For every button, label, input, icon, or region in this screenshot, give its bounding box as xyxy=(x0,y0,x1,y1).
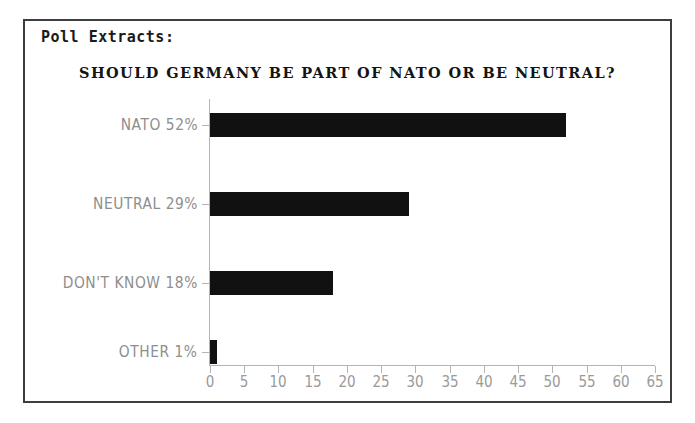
x-axis-tick xyxy=(244,366,245,373)
bar-row: NEUTRAL 29% xyxy=(25,191,674,217)
y-axis-tick xyxy=(202,204,209,205)
x-axis-tick-label: 10 xyxy=(260,373,296,391)
x-axis-tick xyxy=(621,366,622,373)
x-axis-tick xyxy=(210,366,211,373)
y-axis-tick xyxy=(202,352,209,353)
x-axis-tick xyxy=(415,366,416,373)
bar-neutral xyxy=(210,192,409,216)
x-axis-tick-label: 0 xyxy=(192,373,228,391)
x-axis-tick xyxy=(381,366,382,373)
x-axis-tick xyxy=(450,366,451,373)
x-axis-line xyxy=(209,365,655,366)
x-axis-tick xyxy=(347,366,348,373)
bar-other xyxy=(210,340,217,364)
x-axis-tick-label: 5 xyxy=(226,373,262,391)
x-axis-tick xyxy=(313,366,314,373)
x-axis-tick-label: 25 xyxy=(363,373,399,391)
bar-category-label: NEUTRAL 29% xyxy=(93,191,198,217)
figure-frame: Poll Extracts: SHOULD GERMANY BE PART OF… xyxy=(23,19,672,403)
x-axis-tick-label: 50 xyxy=(534,373,570,391)
x-axis-tick xyxy=(518,366,519,373)
x-axis-tick-label: 35 xyxy=(432,373,468,391)
x-axis-tick xyxy=(655,366,656,373)
y-axis-tick xyxy=(202,283,209,284)
bar-row: DON'T KNOW 18% xyxy=(25,270,674,296)
x-axis-tick-label: 15 xyxy=(295,373,331,391)
x-axis-tick xyxy=(587,366,588,373)
bar-don-t-know xyxy=(210,271,333,295)
bar-row: NATO 52% xyxy=(25,112,674,138)
x-axis-tick-label: 55 xyxy=(569,373,605,391)
x-axis-tick xyxy=(278,366,279,373)
bar-nato xyxy=(210,113,566,137)
x-axis-tick-label: 20 xyxy=(329,373,365,391)
bar-category-label: NATO 52% xyxy=(121,112,198,138)
bar-row: OTHER 1% xyxy=(25,339,674,365)
x-axis-tick-label: 30 xyxy=(397,373,433,391)
x-axis-tick-label: 40 xyxy=(466,373,502,391)
y-axis-line xyxy=(209,99,210,365)
x-axis-tick xyxy=(552,366,553,373)
y-axis-tick xyxy=(202,125,209,126)
x-axis-tick-label: 45 xyxy=(500,373,536,391)
bar-category-label: OTHER 1% xyxy=(119,339,198,365)
bar-category-label: DON'T KNOW 18% xyxy=(63,270,198,296)
x-axis-tick-label: 60 xyxy=(603,373,639,391)
x-axis-tick-label: 65 xyxy=(637,373,673,391)
plot-area: NATO 52%NEUTRAL 29%DON'T KNOW 18%OTHER 1… xyxy=(25,21,674,401)
x-axis-tick xyxy=(484,366,485,373)
